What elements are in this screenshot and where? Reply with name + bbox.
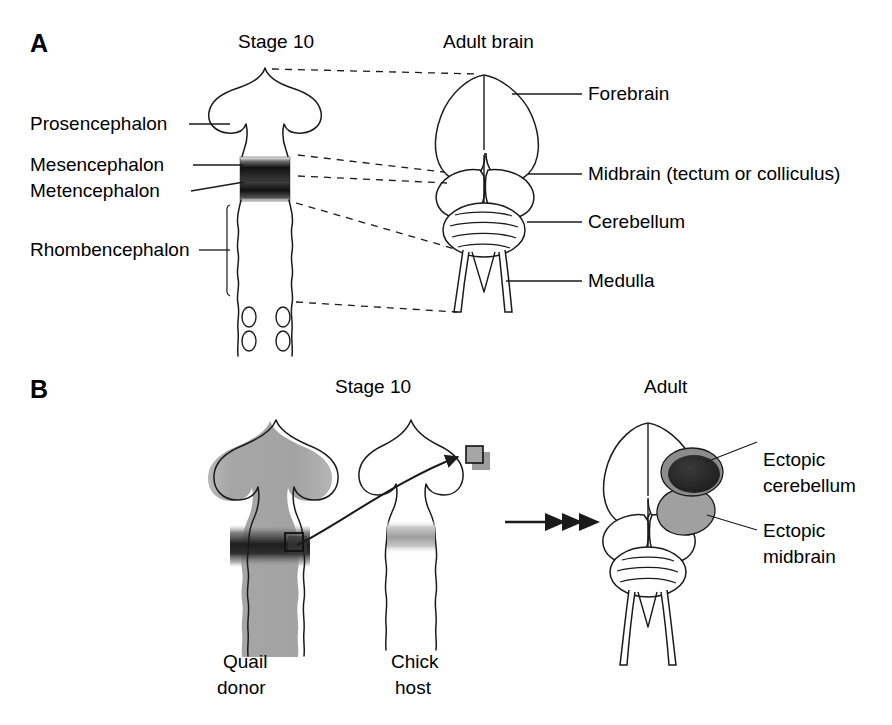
label-ectopic-midbrain-line2: midbrain [763, 546, 836, 567]
ectopic-cerebellum-core [668, 455, 720, 493]
panel-b-letter: B [30, 375, 48, 403]
label-metencephalon: Metencephalon [30, 180, 160, 201]
label-cerebellum: Cerebellum [588, 211, 685, 232]
panel-a-letter: A [30, 29, 48, 57]
label-prosencephalon: Prosencephalon [30, 113, 167, 134]
label-forebrain: Forebrain [588, 83, 669, 104]
adult-b-cerebellum [610, 547, 686, 597]
chick-isthmus-band [387, 520, 435, 554]
chick-host-label-line1: Chick [391, 651, 439, 672]
label-medulla: Medulla [588, 270, 655, 291]
label-midbrain: Midbrain (tectum or colliculus) [588, 163, 840, 184]
label-ectopic-cerebellum-line2: cerebellum [763, 475, 856, 496]
figure-root: A Stage 10 Adult brain [0, 0, 892, 725]
panel-a-header-stage10: Stage 10 [238, 31, 314, 52]
label-ectopic-midbrain-line1: Ectopic [763, 520, 825, 541]
panel-a-header-adult-brain: Adult brain [443, 31, 534, 52]
quail-donor-label-line2: donor [217, 677, 266, 698]
quail-donor-label-line1: Quail [223, 651, 267, 672]
label-ectopic-cerebellum-line1: Ectopic [763, 449, 825, 470]
graft-destination-square [466, 446, 483, 463]
label-mesencephalon: Mesencephalon [30, 154, 164, 175]
isthmus-band [240, 157, 290, 201]
chick-host-label-line2: host [395, 677, 432, 698]
cerebellum-body [443, 203, 525, 257]
panel-b-header-stage10: Stage 10 [335, 376, 411, 397]
panel-b-header-adult: Adult [644, 376, 688, 397]
label-rhombencephalon: Rhombencephalon [30, 239, 190, 260]
